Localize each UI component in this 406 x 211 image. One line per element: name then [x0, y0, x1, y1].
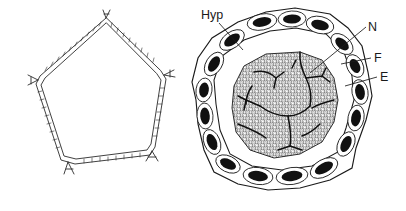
label-f: F: [374, 51, 382, 65]
figure-root: Hyp N F E: [0, 0, 406, 211]
label-e: E: [380, 70, 388, 84]
label-n: N: [368, 20, 377, 34]
botanical-cross-section-illustration: Hyp N F E: [0, 0, 406, 211]
label-hyp: Hyp: [201, 8, 223, 22]
